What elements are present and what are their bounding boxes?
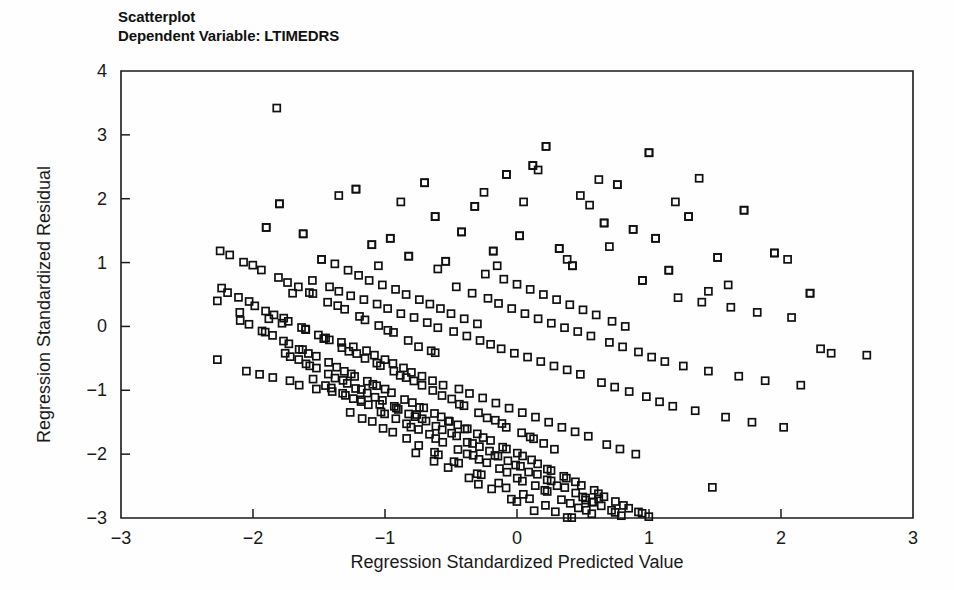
data-points-group (214, 105, 870, 522)
data-point (587, 333, 594, 340)
data-point (432, 213, 439, 220)
data-point (646, 149, 653, 156)
data-point (405, 337, 412, 344)
data-point (397, 310, 404, 317)
data-point (551, 446, 558, 453)
data-point (461, 315, 468, 322)
data-point (807, 290, 814, 297)
data-point (483, 459, 490, 466)
data-point (527, 286, 534, 293)
data-point (598, 379, 605, 386)
data-point (465, 474, 472, 481)
data-point (484, 414, 491, 421)
data-point (771, 249, 778, 256)
data-point (415, 426, 422, 433)
data-point (511, 350, 518, 357)
data-point (401, 396, 408, 403)
data-point (503, 171, 510, 178)
data-point (284, 279, 291, 286)
data-point (696, 175, 703, 182)
data-point (481, 189, 488, 196)
data-point (714, 254, 721, 261)
data-point (429, 387, 436, 394)
data-point (269, 332, 276, 339)
data-point (543, 143, 550, 150)
x-tick-label: −1 (375, 528, 396, 548)
data-point (318, 256, 325, 263)
data-point (296, 382, 303, 389)
data-point (548, 320, 555, 327)
data-point (392, 286, 399, 293)
data-point (442, 258, 449, 265)
data-point (669, 403, 676, 410)
data-point (556, 245, 563, 252)
data-point (518, 429, 525, 436)
data-point (572, 490, 579, 497)
data-point (434, 324, 441, 331)
data-point (514, 281, 521, 288)
data-point (748, 419, 755, 426)
data-point (603, 441, 610, 448)
data-point (863, 352, 870, 359)
data-point (586, 202, 593, 209)
data-point (722, 414, 729, 421)
data-point (622, 323, 629, 330)
data-point (448, 310, 455, 317)
data-point (762, 377, 769, 384)
data-point (585, 433, 592, 440)
data-point (709, 484, 716, 491)
data-point (532, 414, 539, 421)
data-point (545, 419, 552, 426)
data-point (347, 292, 354, 299)
data-point (532, 482, 539, 489)
data-point (410, 377, 417, 384)
data-point (616, 446, 623, 453)
data-point (661, 358, 668, 365)
data-point (418, 382, 425, 389)
data-point (609, 318, 616, 325)
data-point (643, 393, 650, 400)
data-point (236, 309, 243, 316)
y-tick-label: 0 (97, 316, 107, 336)
data-point (540, 291, 547, 298)
data-point (371, 352, 378, 359)
data-point (243, 368, 250, 375)
data-point (487, 341, 494, 348)
data-point (397, 198, 404, 205)
data-point (572, 428, 579, 435)
data-point (503, 484, 510, 491)
data-point (333, 364, 340, 371)
data-point (249, 262, 256, 269)
data-point (263, 224, 270, 231)
data-point (409, 399, 416, 406)
data-point (725, 281, 732, 288)
data-point (429, 377, 436, 384)
data-point (325, 359, 332, 366)
y-tick-label: −1 (86, 380, 107, 400)
data-point (454, 446, 461, 453)
data-point (359, 415, 366, 422)
data-point (574, 328, 581, 335)
data-point (525, 469, 532, 476)
data-point (361, 355, 368, 362)
data-point (335, 192, 342, 199)
data-point (504, 457, 511, 464)
data-point (262, 308, 269, 315)
y-tick-label: 4 (97, 61, 107, 81)
data-point (442, 258, 449, 265)
data-point (626, 388, 633, 395)
data-point (341, 368, 348, 375)
data-point (601, 219, 608, 226)
data-point (646, 149, 653, 156)
data-point (577, 371, 584, 378)
data-point (235, 294, 242, 301)
data-point (324, 299, 331, 306)
data-point (426, 301, 433, 308)
data-point (567, 500, 574, 507)
data-point (521, 310, 528, 317)
data-point (421, 179, 428, 186)
data-point (498, 345, 505, 352)
data-point (550, 363, 557, 370)
data-point (276, 200, 283, 207)
data-point (403, 435, 410, 442)
